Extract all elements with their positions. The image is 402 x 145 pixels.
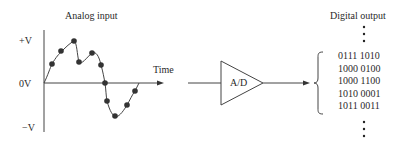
time-axis-label: Time [153, 64, 174, 75]
analog-input-title: Analog input [65, 10, 118, 21]
left-brace [314, 52, 323, 114]
sample-point [124, 102, 130, 108]
sample-point [89, 50, 95, 56]
sample-point [132, 88, 138, 94]
y-label-positive: +V [19, 35, 32, 46]
output-arrow-icon [303, 81, 310, 86]
sample-point [71, 38, 77, 44]
sample-point [76, 59, 82, 65]
sample-points [49, 38, 138, 119]
sample-point [102, 80, 108, 86]
digital-code: 0111 1010 [338, 50, 381, 63]
sample-point [112, 113, 118, 119]
digital-code: 1011 0011 [338, 100, 381, 113]
digital-code: 1000 1100 [338, 75, 381, 88]
digital-output-title: Digital output [330, 10, 386, 21]
ellipsis-bottom-icon [363, 121, 365, 137]
x-axis-arrow-icon [157, 81, 164, 86]
sample-point [98, 62, 104, 68]
y-label-negative: −V [22, 122, 35, 133]
sample-point [104, 98, 110, 104]
sample-point [49, 61, 55, 67]
ellipsis-top-icon [363, 26, 365, 42]
ad-converter-label: A/D [230, 77, 247, 88]
y-label-zero: 0V [19, 78, 31, 89]
sample-point [58, 48, 64, 54]
digital-code: 1010 0001 [338, 88, 381, 101]
digital-codes-list: 0111 1010 1000 0100 1000 1100 1010 0001 … [338, 50, 381, 113]
digital-code: 1000 0100 [338, 63, 381, 76]
